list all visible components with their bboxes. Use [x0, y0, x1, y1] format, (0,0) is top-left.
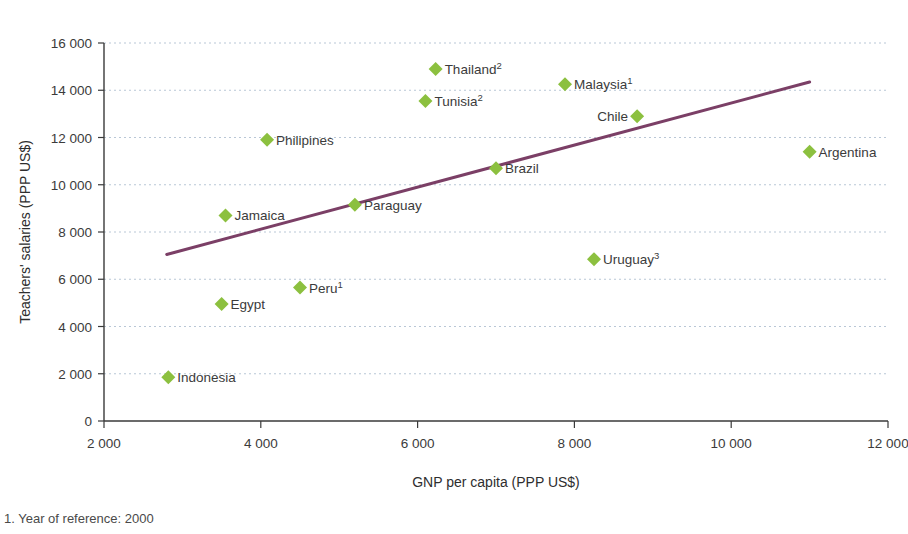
- data-point-label: Brazil: [505, 161, 539, 176]
- x-tick-label: 6 000: [401, 436, 435, 451]
- data-point[interactable]: Thailand2: [429, 60, 502, 77]
- data-point-marker: [803, 145, 817, 159]
- data-point-label: Argentina: [819, 145, 877, 160]
- data-point[interactable]: Chile: [597, 109, 644, 124]
- data-point-marker: [418, 94, 432, 108]
- data-point-marker: [348, 198, 362, 212]
- data-point-label: Philipines: [276, 133, 334, 148]
- y-tick-label: 4 000: [58, 320, 92, 335]
- data-point-marker: [558, 77, 572, 91]
- data-point-marker: [630, 109, 644, 123]
- data-point-marker: [587, 252, 601, 266]
- data-point-label: Jamaica: [235, 208, 286, 223]
- data-point-label: Chile: [597, 109, 628, 124]
- data-point[interactable]: Paraguay: [348, 198, 422, 213]
- x-tick-label: 4 000: [244, 436, 278, 451]
- y-tick-label: 8 000: [58, 225, 92, 240]
- data-point[interactable]: Indonesia: [161, 370, 236, 385]
- y-tick-label: 2 000: [58, 367, 92, 382]
- data-point-label: Uruguay3: [603, 250, 659, 267]
- chart-footnote: 1. Year of reference: 2000: [4, 511, 154, 526]
- y-tick-label: 10 000: [51, 178, 92, 193]
- data-point-marker: [260, 133, 274, 147]
- data-point-label: Paraguay: [364, 198, 422, 213]
- data-points: IndonesiaEgyptJamaicaPhilipinesPeru1Para…: [161, 60, 877, 385]
- trend-line: [167, 82, 810, 254]
- data-point-marker: [161, 370, 175, 384]
- data-point[interactable]: Peru1: [293, 279, 343, 296]
- x-tick-label: 2 000: [87, 436, 121, 451]
- data-point-marker: [215, 297, 229, 311]
- data-point[interactable]: Jamaica: [219, 208, 286, 223]
- y-tick-label: 14 000: [51, 83, 92, 98]
- y-tick-label: 12 000: [51, 131, 92, 146]
- data-point-label: Malaysia1: [574, 75, 633, 92]
- y-axis-title: Teachers' salaries (PPP US$): [17, 140, 33, 324]
- y-axis-ticks: 02 0004 0006 0008 00010 00012 00014 0001…: [51, 36, 104, 429]
- data-point[interactable]: Argentina: [803, 145, 877, 160]
- y-tick-label: 6 000: [58, 272, 92, 287]
- data-point[interactable]: Philipines: [260, 133, 334, 148]
- x-tick-label: 12 000: [867, 436, 908, 451]
- scatter-chart: 02 0004 0006 0008 00010 00012 00014 0001…: [0, 0, 908, 534]
- data-point-label: Thailand2: [445, 60, 502, 77]
- data-point-label: Peru1: [309, 279, 343, 296]
- data-point[interactable]: Tunisia2: [418, 92, 482, 109]
- data-point[interactable]: Egypt: [215, 297, 266, 312]
- x-axis-ticks: 2 0004 0006 0008 00010 00012 000: [87, 421, 908, 451]
- data-point-marker: [219, 208, 233, 222]
- data-point-marker: [293, 281, 307, 295]
- data-point[interactable]: Brazil: [489, 161, 539, 176]
- chart-canvas: 02 0004 0006 0008 00010 00012 00014 0001…: [0, 0, 908, 534]
- data-point-label: Egypt: [231, 297, 266, 312]
- y-tick-label: 0: [84, 414, 92, 429]
- data-point-label: Indonesia: [177, 370, 236, 385]
- data-point-marker: [429, 62, 443, 76]
- x-tick-label: 10 000: [711, 436, 752, 451]
- x-axis-title: GNP per capita (PPP US$): [412, 474, 580, 490]
- x-tick-label: 8 000: [558, 436, 592, 451]
- data-point-label: Tunisia2: [434, 92, 482, 109]
- data-point[interactable]: Uruguay3: [587, 250, 659, 267]
- y-tick-label: 16 000: [51, 36, 92, 51]
